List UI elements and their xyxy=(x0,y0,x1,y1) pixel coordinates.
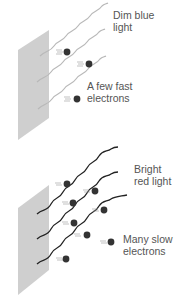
bright-red-light-label: Bright red light xyxy=(134,163,171,187)
metal-plate-bottom xyxy=(18,185,49,295)
electron-icon xyxy=(100,239,114,246)
bright-red-light-waves xyxy=(37,147,127,264)
electron-icon xyxy=(92,207,107,214)
electron-icon xyxy=(56,256,69,263)
photoelectric-diagram xyxy=(0,0,187,303)
metal-plate-top xyxy=(18,30,49,140)
electron-icon xyxy=(74,232,90,239)
electron-icon xyxy=(55,181,70,188)
electron-icon xyxy=(64,96,80,103)
few-fast-electrons-label: A few fast electrons xyxy=(87,80,133,104)
electron-icon xyxy=(56,49,70,56)
electron-icon xyxy=(62,220,77,227)
dim-blue-light-label: Dim blue light xyxy=(113,9,154,33)
electron-icon xyxy=(77,61,92,68)
many-slow-electrons-label: Many slow electrons xyxy=(123,233,173,257)
electron-icon xyxy=(62,200,76,207)
